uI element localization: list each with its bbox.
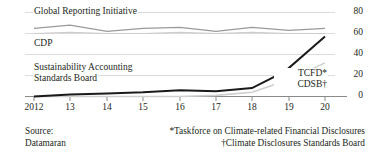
series-line-gri <box>34 25 325 31</box>
y-tick-label-60: 60 <box>341 28 363 38</box>
y-tick-label-20: 20 <box>341 70 363 80</box>
chart-footer: Source: Datamaran *Taskforce on Climate-… <box>0 122 377 155</box>
chart-container: 80 60 40 20 0 2012 13 14 15 16 17 18 19 … <box>0 0 377 155</box>
series-label-sasb-line2: Standards Board <box>33 73 98 84</box>
y-tick-label-80: 80 <box>341 7 363 17</box>
source-label: Source: <box>25 126 66 138</box>
x-tick-label-17: 17 <box>204 103 228 113</box>
x-tick-label-14: 14 <box>95 103 119 113</box>
footnotes-block: *Taskforce on Climate-related Financial … <box>169 126 365 149</box>
y-tick-label-0: 0 <box>341 91 363 101</box>
footnote-cdsb: †Climate Disclosures Standards Board <box>169 138 365 150</box>
series-label-gri: Global Reporting Initiative <box>33 6 138 17</box>
source-block: Source: Datamaran <box>25 126 66 149</box>
series-label-cdp: CDP <box>33 38 53 49</box>
series-label-tcfd: TCFD* <box>274 68 328 79</box>
series-label-cdsb: CDSB† <box>274 79 328 90</box>
source-value: Datamaran <box>25 138 66 150</box>
x-tick-label-20: 20 <box>313 103 337 113</box>
y-tick-label-40: 40 <box>341 49 363 59</box>
x-tick-label-15: 15 <box>131 103 155 113</box>
footnote-tcfd: *Taskforce on Climate-related Financial … <box>169 126 365 138</box>
x-tick-label-19: 19 <box>277 103 301 113</box>
series-label-sasb-line1: Sustainability Accounting <box>33 62 133 73</box>
x-tick-label-2012: 2012 <box>19 103 49 113</box>
plot-area: 80 60 40 20 0 2012 13 14 15 16 17 18 19 … <box>0 0 377 120</box>
x-tick-label-13: 13 <box>58 103 82 113</box>
x-tick-label-16: 16 <box>168 103 192 113</box>
x-tick-label-18: 18 <box>240 103 264 113</box>
